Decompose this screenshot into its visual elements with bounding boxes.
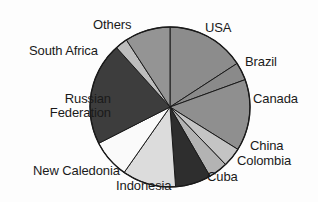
pie-label-russian-federation-line1: Russian <box>33 92 111 106</box>
pie-label-others: Others <box>93 18 131 32</box>
pie-label-colombia: Colombia <box>237 154 291 168</box>
pie-label-new-caledonia: New Caledonia <box>33 164 120 178</box>
pie-chart-figure: Others USA South Africa Brazil Canada Ru… <box>0 0 318 202</box>
pie-label-canada: Canada <box>253 92 298 106</box>
pie-label-cuba: Cuba <box>207 170 238 184</box>
pie-label-russian-federation: Russian Federation <box>33 92 111 120</box>
pie-label-brazil: Brazil <box>245 55 277 69</box>
pie-label-indonesia: Indonesia <box>116 179 171 193</box>
pie-label-russian-federation-line2: Federation <box>33 106 111 120</box>
pie-label-south-africa: South Africa <box>29 44 98 58</box>
pie-label-usa: USA <box>205 21 231 35</box>
pie-label-china: China <box>250 139 283 153</box>
